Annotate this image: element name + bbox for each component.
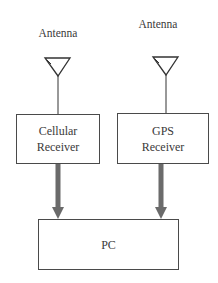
pc-box: PC	[38, 219, 179, 270]
pc-label: PC	[101, 237, 116, 253]
cellular-receiver-line2: Receiver	[37, 139, 80, 155]
cellular-receiver-line1: Cellular	[39, 123, 78, 139]
gps-receiver-line1: GPS	[152, 123, 174, 139]
antenna-label-left: Antenna	[30, 26, 86, 40]
arrow-down-icon	[52, 163, 64, 219]
antenna-label-right: Antenna	[130, 17, 186, 31]
arrow-down-icon	[155, 163, 167, 219]
antenna-icon	[153, 57, 178, 113]
gps-receiver-line2: Receiver	[142, 139, 185, 155]
cellular-receiver-box: Cellular Receiver	[16, 114, 100, 164]
antenna-icon	[45, 58, 70, 114]
gps-receiver-box: GPS Receiver	[117, 113, 209, 164]
